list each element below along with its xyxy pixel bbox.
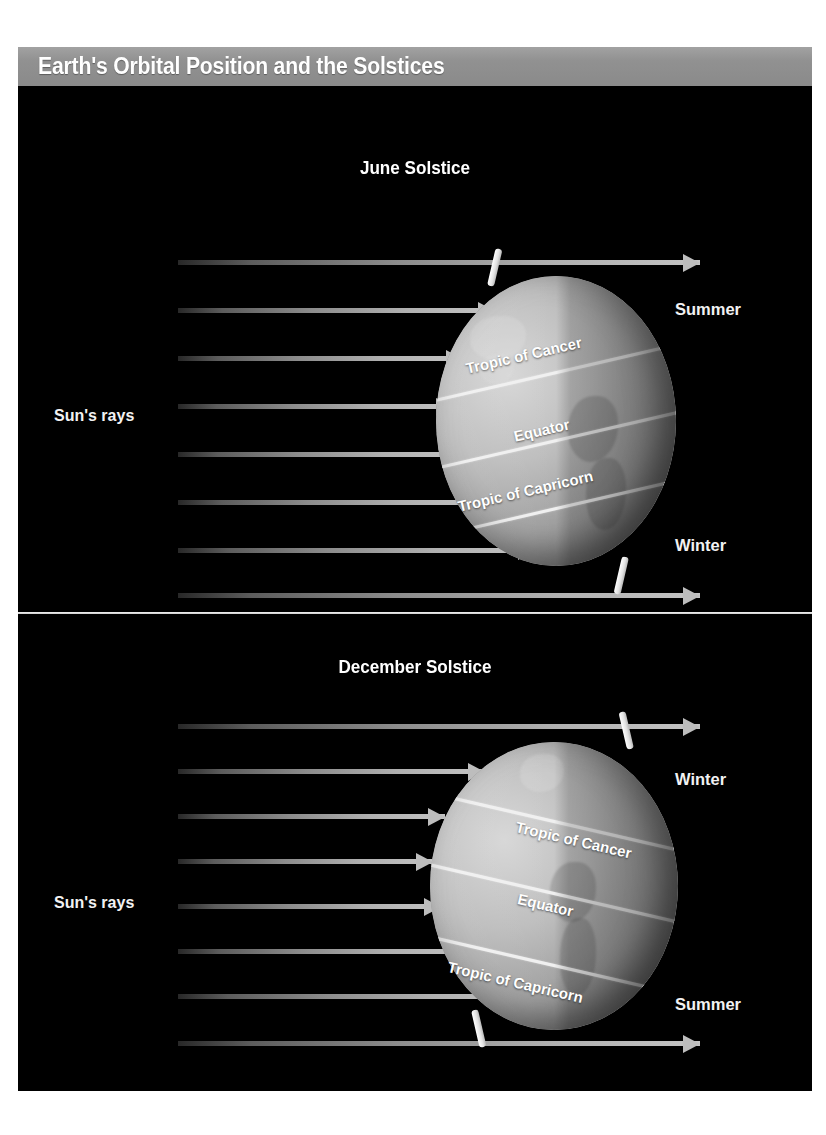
sun-ray: [178, 947, 473, 956]
figure-container: Earth's Orbital Position and the Solstic…: [18, 47, 812, 1091]
globe-december: Tropic of Cancer Equator Tropic of Capri…: [430, 742, 678, 1030]
sun-ray: [178, 591, 700, 600]
panel-december-solstice: December Solstice Sun's rays Winter Summ…: [18, 614, 812, 1091]
season-label-winter-december: Winter: [675, 770, 726, 789]
season-label-winter-june: Winter: [675, 536, 726, 555]
sun-ray: [178, 902, 441, 911]
sun-rays-label-june: Sun's rays: [54, 407, 134, 425]
sun-ray: [178, 258, 700, 267]
sun-ray: [178, 354, 463, 363]
sun-ray: [178, 1039, 700, 1048]
sun-ray: [178, 402, 453, 411]
season-label-summer-december: Summer: [675, 995, 741, 1014]
globe-june: Tropic of Cancer Equator Tropic of Capri…: [436, 276, 676, 566]
panel-june-solstice: June Solstice Sun's rays Summer Winter: [18, 86, 812, 613]
sun-ray: [178, 812, 445, 821]
panel-heading-june: June Solstice: [325, 157, 505, 179]
figure-title: Earth's Orbital Position and the Solstic…: [38, 53, 444, 80]
sun-ray: [178, 857, 433, 866]
season-label-summer-june: Summer: [675, 300, 741, 319]
panel-heading-december: December Solstice: [307, 656, 523, 678]
sun-ray: [178, 450, 463, 459]
sun-rays-label-december: Sun's rays: [54, 894, 134, 912]
figure-title-bar: Earth's Orbital Position and the Solstic…: [18, 47, 812, 86]
